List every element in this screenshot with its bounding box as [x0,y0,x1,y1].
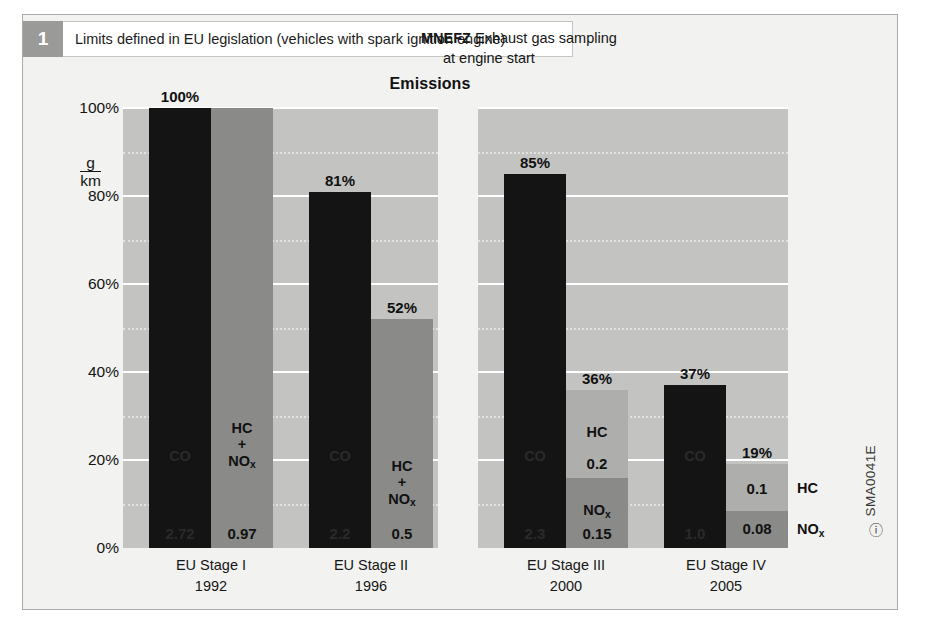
figure-container: 1 Limits defined in EU legislation (vehi… [22,14,898,610]
unit-denominator: km [80,171,101,189]
chart-title: Emissions [23,75,897,93]
segment-value: 1.0 [664,525,726,542]
x-axis: EU Stage I1992EU Stage II1996EU Stage II… [123,555,823,605]
segment-name: NOx [566,502,628,518]
y-axis-tick: 20% [88,451,119,469]
caption-code: SMA0041E [863,445,878,517]
x-tick-year: 2005 [686,576,766,597]
segment-value: 0.1 [726,480,788,497]
gridline [478,107,788,109]
segment-value: 0.15 [566,525,628,542]
segment-name: CO [664,448,726,464]
segment-value: 0.5 [371,525,433,542]
bar-segment: CO2.72 [149,108,211,548]
y-axis-tick: 100% [79,99,119,117]
y-axis-tick: 60% [88,275,119,293]
annotation-line1: Exhaust gas sampling [475,30,617,46]
y-axis-tick: 0% [97,539,119,557]
x-tick-category: EU Stage II [334,555,408,576]
x-tick-year: 2000 [527,576,605,597]
figure-caption: SMA0041E ⓘ [863,445,889,537]
x-tick-category: EU Stage III [527,555,605,576]
segment-name: HC+NOx [211,420,273,469]
unit-numerator: g [80,155,101,171]
x-tick-category: EU Stage IV [686,555,766,576]
bar-segment: HC+NOx0.5 [371,319,433,548]
bar-segment: CO2.2 [309,192,371,548]
annotation-lead: MNEFZ [421,30,471,46]
x-axis-tick: EU Stage IV2005 [686,555,766,597]
y-axis-tick: 80% [88,187,119,205]
annotation-line2: at engine start [421,49,617,69]
bar: 100%CO2.72 [149,108,211,548]
segment-value: 0.2 [566,455,628,472]
bar-value-label: 81% [325,172,355,189]
bar-value-label: 19% [742,444,772,461]
y-axis: 100%80%60%40%20%0%gkm [45,108,119,548]
segment-value: 0.08 [726,520,788,537]
bar-value-label: 36% [582,370,612,387]
y-axis-tick: 40% [88,363,119,381]
segment-value: 0.97 [211,525,273,542]
x-tick-year: 1992 [176,576,246,597]
bar: 52%HC+NOx0.5 [371,319,433,548]
mnefz-annotation: MNEFZ Exhaust gas sampling at engine sta… [421,29,617,68]
bar-segment: NOx0.15 [566,478,628,548]
segment-value: 2.2 [309,525,371,542]
x-axis-tick: EU Stage III2000 [527,555,605,597]
x-axis-tick: EU Stage I1992 [176,555,246,597]
bar-value-label: 52% [387,299,417,316]
x-axis-tick: EU Stage II1996 [334,555,408,597]
segment-value: 2.3 [504,525,566,542]
bar-segment: NOx0.08NOx [726,511,788,548]
bar-value-label: 37% [680,365,710,382]
segment-name: CO [149,448,211,464]
bar: 36%NOx0.15HC0.2 [566,390,628,548]
bar-segment: CO1.0 [664,385,726,548]
bar-segment: HC0.2 [566,390,628,478]
segment-value: 2.72 [149,525,211,542]
segment-name: CO [504,448,566,464]
bar-value-label: 100% [161,88,199,105]
segment-outside-label: HC [797,480,818,496]
segment-name: HC [797,480,818,496]
bar: 37%CO1.0 [664,385,726,548]
caption-mark-icon: ⓘ [863,523,889,537]
segment-outside-label: NOx [797,521,824,537]
segment-name: CO [309,448,371,464]
bar-segment: HC+NOx0.97 [211,108,273,548]
bar: 85%CO2.3 [504,174,566,548]
bar-segment: CO2.3 [504,174,566,548]
bar: HC+NOx0.97 [211,108,273,548]
plot-area: 100%CO2.72HC+NOx0.9781%CO2.252%HC+NOx0.5… [123,108,823,548]
bar-segment: HC0.1HC [726,464,788,510]
figure-number-badge: 1 [23,21,63,57]
segment-name: HC [566,424,628,440]
segment-name: HC+NOx [371,458,433,507]
x-tick-year: 1996 [334,576,408,597]
bar: 19%NOx0.08NOxHC0.1HC [726,464,788,548]
bar: 81%CO2.2 [309,192,371,548]
segment-name: NOx [797,521,824,537]
y-axis-unit: gkm [80,155,101,190]
x-tick-category: EU Stage I [176,555,246,576]
bar-value-label: 85% [520,154,550,171]
